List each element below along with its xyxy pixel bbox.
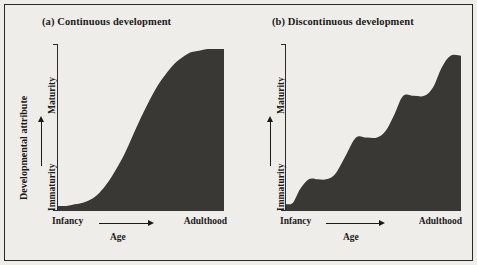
panel-b-x-axis-name: Age bbox=[343, 232, 359, 242]
panel-a-plot-area bbox=[57, 44, 223, 211]
panel-b-x-arrow-head-icon bbox=[379, 220, 385, 226]
panel-a-y-arrow-head-icon bbox=[38, 116, 44, 122]
panel-discontinuous-development: (b) Discontinuous development Immaturity… bbox=[236, 0, 477, 265]
panel-a-y-high-label: Maturity bbox=[47, 77, 57, 114]
panel-b-plot-area bbox=[285, 44, 460, 211]
panel-b-title: (b) Discontinuous development bbox=[272, 16, 414, 27]
panel-a-y-axis-label-group: Immaturity Maturity bbox=[34, 44, 50, 211]
panel-b-x-high-label: Adulthood bbox=[419, 216, 462, 226]
panel-continuous-development: (a) Continuous development Developmental… bbox=[0, 0, 236, 265]
panel-a-outer-axis-label: Developmental attribute bbox=[18, 96, 29, 200]
panel-a-title: (a) Continuous development bbox=[42, 16, 171, 27]
panel-b-y-arrow-head-icon bbox=[267, 116, 273, 122]
panel-a-y-low-label: Immaturity bbox=[47, 164, 57, 212]
panel-b-x-arrow-shaft bbox=[326, 223, 380, 224]
panel-a-y-arrow-shaft bbox=[41, 122, 42, 166]
panel-b-x-axis-label-group: Infancy Adulthood bbox=[280, 216, 462, 232]
panel-a-x-axis-label-group: Infancy Adulthood bbox=[52, 216, 227, 232]
panel-a-x-arrow-head-icon bbox=[148, 220, 154, 226]
panel-b-x-low-label: Infancy bbox=[280, 216, 311, 226]
panel-a-sigmoid-area bbox=[58, 44, 224, 211]
figure-container: (a) Continuous development Developmental… bbox=[0, 0, 477, 265]
panel-b-y-axis-label-group: Immaturity Maturity bbox=[263, 44, 279, 211]
panel-b-staircase-area bbox=[286, 44, 461, 211]
panel-a-x-axis-name: Age bbox=[110, 232, 126, 242]
panel-b-y-arrow-shaft bbox=[270, 122, 271, 166]
panel-a-x-arrow-shaft bbox=[99, 223, 149, 224]
panel-a-x-high-label: Adulthood bbox=[184, 216, 227, 226]
panel-a-x-low-label: Infancy bbox=[52, 216, 83, 226]
